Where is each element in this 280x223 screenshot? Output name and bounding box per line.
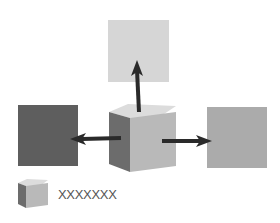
diagram-graphics bbox=[0, 0, 280, 223]
legend-cube-icon bbox=[18, 179, 48, 208]
legend-label: XXXXXXX bbox=[58, 187, 117, 202]
arrow-up bbox=[131, 60, 143, 112]
